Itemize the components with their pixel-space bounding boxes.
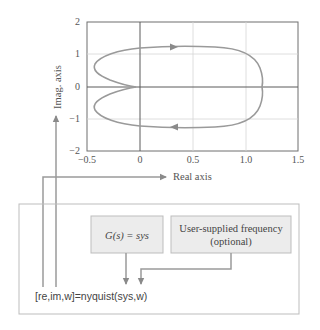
- frequency-box-line1: User-supplied frequency: [179, 223, 283, 234]
- ytick-label: 2: [75, 16, 80, 27]
- ytick-label: 0: [75, 81, 80, 92]
- xtick-label: −0.5: [78, 154, 96, 165]
- ytick-label: −1: [69, 113, 80, 124]
- frequency-input-box: User-supplied frequency (optional): [171, 216, 291, 253]
- xtick-label: 0: [138, 154, 143, 165]
- nyquist-plot: 2 1 0 −1 −2 −0.5 0 0.5 1.0 1.5 Imag. axi…: [52, 16, 304, 182]
- ytick-label: 1: [75, 48, 80, 59]
- frequency-input-arrow: [141, 253, 231, 284]
- x-axis-label: Real axis: [173, 171, 212, 182]
- gs-input-box: G(s) = sys: [91, 216, 163, 253]
- nyquist-command: [re,im,w]=nyquist(sys,w): [35, 290, 147, 302]
- xtick-label: 1.0: [240, 154, 253, 165]
- y-axis-label: Imag. axis: [52, 65, 63, 109]
- nyquist-diagram: 2 1 0 −1 −2 −0.5 0 0.5 1.0 1.5 Imag. axi…: [0, 0, 320, 330]
- frequency-box-line2: (optional): [210, 236, 252, 248]
- xtick-label: 0.5: [187, 154, 200, 165]
- xtick-label: 1.5: [292, 154, 305, 165]
- input-connectors: [126, 253, 231, 284]
- gs-box-label: G(s) = sys: [105, 230, 149, 242]
